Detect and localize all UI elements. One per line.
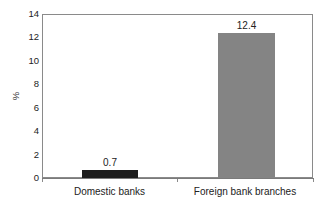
x-axis-category-label: Domestic banks: [42, 186, 177, 198]
y-tick-label: 0: [24, 173, 39, 183]
x-axis-category-label: Foreign bank branches: [177, 186, 313, 198]
x-tick-mark: [177, 179, 178, 182]
bar-chart: % 0 2 4 6 8 10 12 14 0.7 12.4 Domestic b…: [0, 0, 325, 209]
bar-foreign-bank-branches: [218, 33, 275, 178]
x-tick-mark: [313, 179, 314, 182]
y-tick-label: 4: [24, 126, 39, 136]
y-axis-tick-labels: 0 2 4 6 8 10 12 14: [24, 0, 39, 209]
x-axis-line: [42, 178, 314, 179]
x-tick-mark: [42, 179, 43, 182]
y-tick-label: 8: [24, 79, 39, 89]
bar-value-label: 12.4: [218, 20, 275, 31]
y-tick-label: 2: [24, 150, 39, 160]
y-tick-label: 6: [24, 103, 39, 113]
y-tick-label: 12: [24, 32, 39, 42]
bar-value-label: 0.7: [82, 157, 138, 168]
y-tick-label: 14: [24, 9, 39, 19]
y-tick-label: 10: [24, 56, 39, 66]
bar-domestic-banks: [82, 170, 138, 178]
y-axis-title: %: [8, 88, 24, 104]
